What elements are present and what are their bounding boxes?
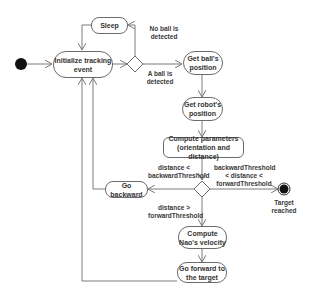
node-go-forward: Go forward to the target bbox=[177, 262, 227, 283]
node-go-backward: Go backward bbox=[105, 181, 148, 198]
decision-distance bbox=[194, 181, 210, 197]
decision-ball-detected bbox=[127, 56, 143, 72]
node-get-ball-position: Get ball's position bbox=[183, 51, 223, 75]
guard-reached: backwardThreshold < distance < forwardTh… bbox=[214, 164, 274, 188]
node-compute-velocity: Compute Nao's velocity bbox=[178, 226, 227, 249]
guard-forward: distance > forwardThreshold bbox=[148, 204, 200, 220]
guard-ball-detected: A ball is detected bbox=[142, 70, 178, 86]
final-label: Target reached bbox=[270, 199, 298, 215]
node-initialize-tracking: Initialize tracking event bbox=[53, 51, 113, 78]
node-compute-parameters: Compute parameters (orientation and dist… bbox=[163, 137, 244, 158]
guard-backward: distance < backwardThreshold bbox=[148, 164, 200, 180]
diagram-edges bbox=[0, 0, 309, 297]
node-sleep: Sleep bbox=[91, 17, 128, 34]
guard-no-ball: No ball is detected bbox=[144, 25, 184, 41]
initial-node bbox=[15, 58, 27, 70]
node-get-robot-position: Get robot's position bbox=[182, 97, 223, 121]
